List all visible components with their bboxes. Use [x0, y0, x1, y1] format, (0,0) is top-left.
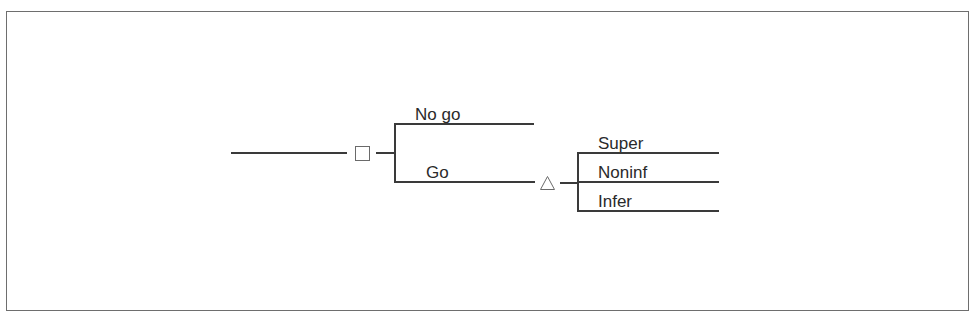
chance-triangle-icon: [541, 177, 555, 190]
branch-go-label: Go: [426, 163, 449, 182]
outcome-super-label: Super: [598, 134, 644, 153]
decision-square-icon: [356, 147, 370, 161]
branch-no-go-label: No go: [415, 105, 460, 124]
decision-tree-diagram: No go Go Super Noninf Infer: [0, 0, 971, 314]
outcome-noninf-label: Noninf: [598, 163, 647, 182]
outcome-infer-label: Infer: [598, 192, 632, 211]
